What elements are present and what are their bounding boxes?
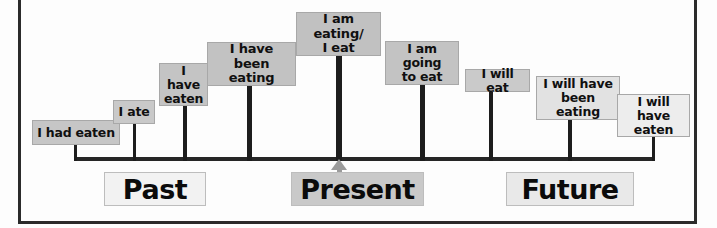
tense-sign-present-perfect: I haveeaten xyxy=(159,63,208,106)
stem-going-to-future xyxy=(420,85,425,161)
tense-sign-label: I will haveeaten xyxy=(618,95,689,137)
tense-sign-label: I am goingto eat xyxy=(386,42,458,84)
tense-sign-past-perfect: I had eaten xyxy=(32,120,120,145)
tense-sign-label: I havebeen eating xyxy=(208,42,295,86)
tense-sign-present-continuous: I am eating/I eat xyxy=(296,12,381,56)
stem-present-perfect xyxy=(183,106,187,161)
tense-sign-label: I will eat xyxy=(466,67,529,95)
stem-past-perfect xyxy=(74,145,77,161)
stem-future-perfect xyxy=(652,137,655,161)
tense-sign-label: I will havebeen eating xyxy=(537,77,619,119)
stem-simple-future xyxy=(489,92,493,161)
tense-sign-simple-future: I will eat xyxy=(465,69,530,92)
verb-tense-timeline-diagram: I had eatenI ateI haveeatenI havebeen ea… xyxy=(0,0,717,228)
period-label-present: Present xyxy=(291,172,424,206)
tense-sign-label: I had eaten xyxy=(33,126,119,140)
tense-sign-label: I haveeaten xyxy=(160,64,207,106)
page-frame-left-rule xyxy=(18,0,21,224)
stem-present-perfect-cont xyxy=(247,86,252,161)
tense-sign-going-to-future: I am goingto eat xyxy=(385,41,459,85)
tense-sign-label: I ate xyxy=(115,105,154,119)
period-label-text: Present xyxy=(300,174,414,205)
tense-sign-present-perfect-cont: I havebeen eating xyxy=(207,42,296,86)
period-label-past: Past xyxy=(104,172,206,206)
stem-present-continuous xyxy=(336,56,342,161)
stem-future-perfect-cont xyxy=(568,120,572,161)
page-frame-right-rule xyxy=(694,0,697,224)
tense-sign-future-perfect: I will haveeaten xyxy=(617,94,690,137)
tense-sign-future-perfect-cont: I will havebeen eating xyxy=(536,76,620,120)
tense-sign-simple-past: I ate xyxy=(113,100,155,124)
tense-sign-label: I am eating/I eat xyxy=(297,12,380,56)
present-arrow-head xyxy=(331,159,347,170)
period-label-text: Future xyxy=(521,174,618,205)
stem-simple-past xyxy=(133,124,136,161)
period-label-future: Future xyxy=(506,172,634,206)
page-frame-bottom-rule xyxy=(18,221,697,224)
period-label-text: Past xyxy=(123,174,187,205)
